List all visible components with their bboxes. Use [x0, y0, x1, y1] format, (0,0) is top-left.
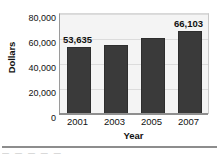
bar — [104, 45, 128, 114]
x-tick-label: 2007 — [169, 116, 209, 127]
bar-chart-figure: Dollars 020,00040,00060,00080,000 53,635… — [0, 0, 219, 154]
x-tick-label: 2005 — [132, 116, 172, 127]
y-tick-label: 80,000 — [14, 13, 56, 23]
x-axis-line — [59, 113, 208, 115]
y-tick-label: 0 — [14, 113, 56, 123]
cutoff-text: — — — — — — [2, 149, 217, 154]
bar-value-label: 53,635 — [54, 34, 102, 45]
bottom-divider — [2, 146, 217, 148]
bar-value-label: 66,103 — [165, 18, 213, 29]
x-tick-label: 2003 — [95, 116, 135, 127]
y-tick-label: 40,000 — [14, 63, 56, 73]
x-tick-label: 2001 — [58, 116, 98, 127]
bar — [178, 31, 202, 114]
y-axis-tick-labels: 020,00040,00060,00080,000 — [14, 8, 56, 118]
y-tick-label: 60,000 — [14, 38, 56, 48]
x-axis-title: Year — [59, 130, 208, 141]
bar — [141, 38, 165, 114]
y-tick-label: 20,000 — [14, 88, 56, 98]
bar — [67, 47, 91, 114]
gridline — [60, 14, 208, 15]
